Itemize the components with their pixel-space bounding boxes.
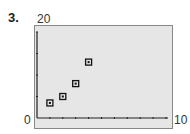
scatter-plot — [0, 0, 190, 134]
